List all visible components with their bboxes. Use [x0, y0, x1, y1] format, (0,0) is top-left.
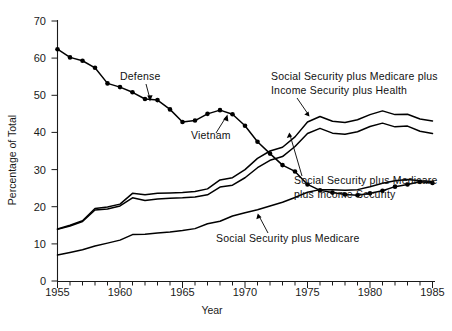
annotation-ss-med-label: Social Security plus Medicare: [216, 232, 360, 244]
series-0-marker: [230, 112, 235, 117]
x-axis-labels: 1955 1960 1965 1970 1975 1980 1985: [45, 286, 444, 298]
x-axis-title: Year: [201, 304, 223, 316]
series-0-marker: [143, 97, 148, 102]
annotation-ss-med-inc-arrowhead: [287, 133, 292, 139]
annotation-ss-med-inc-line2: plus Income Security: [294, 188, 396, 200]
annotation-vietnam: Vietnam: [191, 115, 231, 142]
series-0-marker: [180, 120, 185, 125]
series-0-marker: [193, 118, 198, 123]
y-axis-title: Percentage of Total: [6, 115, 18, 205]
annotation-ss-med-inc: Social Security plus Medicare plus Incom…: [287, 133, 438, 201]
series-0-marker: [255, 139, 260, 144]
series-0-marker: [243, 123, 248, 128]
series-0-marker: [168, 107, 173, 112]
x-tick-label-1965: 1965: [170, 286, 194, 298]
series-0-marker: [130, 90, 135, 95]
annotation-ss-med-inc-health-leader: [297, 98, 308, 114]
y-axis-ticks: [52, 21, 58, 281]
annotation-ss-med-inc-health-line1: Social Security plus Medicare plus: [271, 70, 438, 82]
chart-page: 70 60 50 40 30 20 10 0 1955 1960 1965 19…: [0, 0, 452, 331]
x-tick-label-1960: 1960: [108, 286, 132, 298]
series-0-marker: [80, 58, 85, 63]
annotation-ss-med-leader: [259, 216, 268, 233]
annotation-ss-med-inc-line1: Social Security plus Medicare: [294, 174, 438, 186]
y-tick-label-70: 70: [34, 15, 46, 27]
y-axis-labels: 70 60 50 40 30 20 10 0: [34, 15, 46, 287]
annotation-defense-arrowhead: [147, 95, 152, 101]
series-0-marker: [93, 66, 98, 71]
line-chart: 70 60 50 40 30 20 10 0 1955 1960 1965 19…: [0, 0, 452, 331]
y-tick-label-60: 60: [34, 52, 46, 64]
annotation-ss-med-inc-health: Social Security plus Medicare plus Incom…: [271, 70, 438, 117]
series-0-marker: [55, 47, 60, 52]
x-tick-label-1975: 1975: [295, 286, 319, 298]
series-0-marker: [155, 98, 160, 103]
annotation-defense-label: Defense: [120, 70, 161, 82]
x-tick-label-1970: 1970: [233, 286, 257, 298]
x-tick-label-1980: 1980: [358, 286, 382, 298]
series-0-marker: [218, 108, 223, 113]
x-tick-label-1985: 1985: [420, 286, 444, 298]
y-tick-label-20: 20: [34, 201, 46, 213]
annotation-ss-med: Social Security plus Medicare: [216, 214, 360, 245]
y-tick-label-30: 30: [34, 164, 46, 176]
x-tick-label-1955: 1955: [45, 286, 69, 298]
annotation-ss-med-inc-health-line2: Income Security plus Health: [271, 84, 407, 96]
series-0-marker: [205, 112, 210, 117]
series-0-marker: [268, 151, 273, 156]
series-0-marker: [105, 81, 110, 86]
y-tick-label-40: 40: [34, 126, 46, 138]
series-line-1: [58, 111, 433, 229]
annotation-vietnam-label: Vietnam: [191, 129, 231, 141]
y-tick-label-50: 50: [34, 89, 46, 101]
series-0-marker: [118, 85, 123, 90]
series-0-marker: [280, 163, 285, 168]
series-0-marker: [68, 55, 73, 60]
y-tick-label-10: 10: [34, 238, 46, 250]
